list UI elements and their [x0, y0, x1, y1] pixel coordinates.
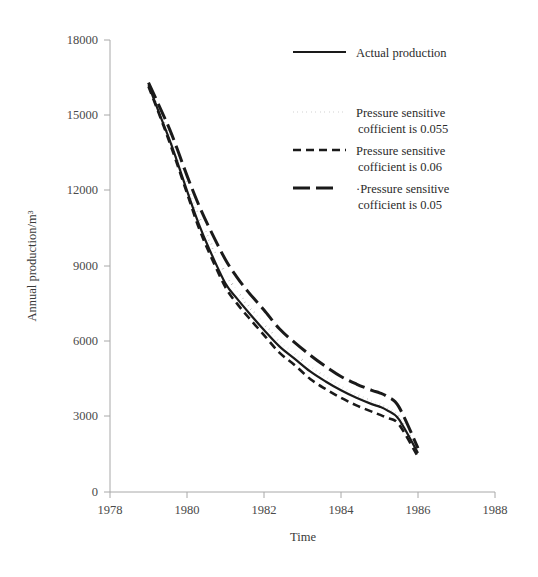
y-tick-label-3000: 3000	[73, 409, 98, 423]
y-axis-ticks	[104, 40, 110, 492]
legend-item-label-3: ·Pressure sensitive	[356, 182, 450, 196]
legend-item-label2-1: cofficient is 0.055	[358, 122, 448, 136]
legend-item-label-1: Pressure sensitive	[356, 106, 446, 120]
y-tick-label-18000: 18000	[67, 33, 98, 47]
y-tick-label-6000: 6000	[73, 334, 98, 348]
y-axis-tick-labels: 18000 15000 12000 9000 6000 3000 0	[67, 33, 98, 499]
x-axis-ticks	[110, 492, 495, 498]
data-series-group	[149, 83, 419, 457]
series-line-dashed	[149, 86, 419, 456]
chart-legend: Actual productionPressure sensitivecoffi…	[293, 46, 450, 213]
legend-item-label2-2: cofficient is 0.06	[358, 160, 442, 174]
x-tick-label-1986: 1986	[406, 503, 431, 517]
x-axis-tick-labels: 1978 1980 1982 1984 1986 1988	[98, 503, 508, 517]
y-tick-label-0: 0	[92, 485, 98, 499]
x-tick-label-1982: 1982	[252, 503, 277, 517]
y-tick-label-9000: 9000	[73, 259, 98, 273]
x-axis-title: Time	[290, 530, 316, 544]
series-line-solid	[149, 85, 419, 453]
y-tick-label-15000: 15000	[67, 108, 98, 122]
chart-figure: 18000 15000 12000 9000 6000 3000 0 1978 …	[0, 0, 538, 577]
series-line-dotted	[149, 85, 419, 452]
chart-canvas: 18000 15000 12000 9000 6000 3000 0 1978 …	[0, 0, 538, 577]
x-tick-label-1978: 1978	[98, 503, 123, 517]
legend-item-label-0: Actual production	[356, 46, 447, 60]
legend-item-label2-3: cofficient is 0.05	[358, 198, 442, 212]
x-tick-label-1980: 1980	[175, 503, 200, 517]
series-line-longdash	[149, 83, 419, 448]
x-tick-label-1984: 1984	[329, 503, 355, 517]
x-tick-label-1988: 1988	[483, 503, 508, 517]
legend-item-label-2: Pressure sensitive	[356, 144, 446, 158]
y-axis-title: Annual production/m³	[25, 210, 39, 321]
y-tick-label-12000: 12000	[67, 183, 98, 197]
